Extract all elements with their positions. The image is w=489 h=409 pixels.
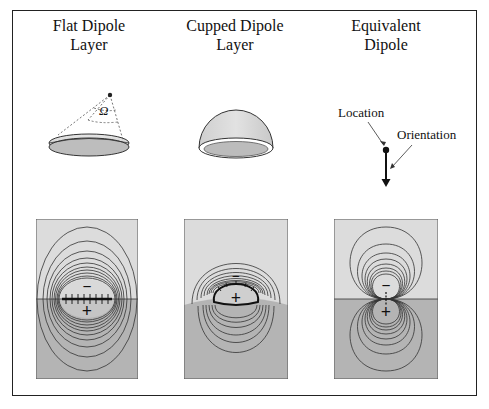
flat-dipole-disc-icon [49,134,129,156]
equivalent-dipole-field-panel [334,219,438,379]
location-pointer-arrowhead-icon [380,141,386,146]
positive-sign: + [381,302,391,322]
flat-dipole-field-panel [36,219,138,379]
orientation-pointer [392,145,412,167]
diagram-canvas: Ω Location Orientation [0,0,489,409]
positive-sign: + [231,288,241,308]
negative-sign: − [82,278,91,295]
location-pointer [368,122,383,144]
negative-sign: − [232,269,240,284]
cupped-dipole-dome-icon [199,110,273,158]
equivalent-dipole-arrow-icon [382,147,391,187]
positive-sign: + [82,301,92,321]
omega-label: Ω [99,103,108,118]
location-label: Location [338,105,385,120]
observation-point-icon [108,93,112,97]
orientation-label: Orientation [397,127,457,142]
solid-angle-cone-icon [58,95,123,140]
negative-sign: − [381,277,390,294]
orientation-pointer-arrowhead-icon [390,163,395,169]
